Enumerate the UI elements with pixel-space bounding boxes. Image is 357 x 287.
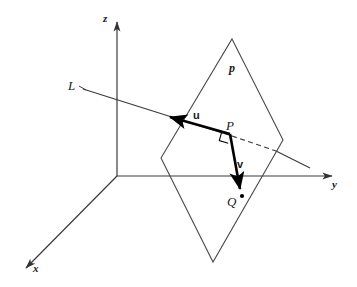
- axis-group: [26, 22, 332, 268]
- vector-label-u: u: [193, 110, 200, 121]
- point-label-P: P: [226, 119, 234, 132]
- line-L-label-leader: [79, 86, 86, 90]
- axis-x-line: [26, 176, 117, 268]
- plane-label-p: p: [229, 62, 235, 74]
- axis-label-y: y: [332, 179, 337, 190]
- plane-outline: [161, 39, 283, 262]
- line-L-right-segment: [276, 151, 310, 168]
- axis-label-z: z: [103, 13, 107, 24]
- line-label-L: L: [68, 79, 75, 92]
- point-label-Q: Q: [227, 195, 236, 208]
- vector-u-arrow: [170, 117, 230, 134]
- geometry-canvas: [0, 0, 357, 287]
- vector-label-v: v: [237, 159, 243, 170]
- point-Q-dot: [240, 194, 244, 198]
- axis-label-x: x: [33, 263, 39, 274]
- line-L-dashed-segment: [232, 136, 276, 151]
- geometry-figure: z y x p L P Q u v: [0, 0, 357, 287]
